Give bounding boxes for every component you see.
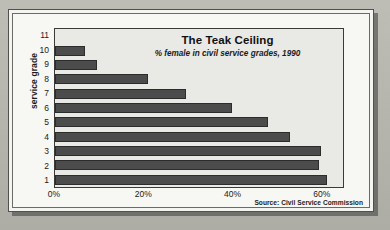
- figure-card: service grade 1110987654321 The Teak Cei…: [8, 9, 374, 212]
- bar-row: [55, 173, 343, 187]
- bar: [55, 146, 321, 156]
- bar: [55, 117, 268, 127]
- y-axis-tick-label: 5: [25, 115, 51, 130]
- bar-row: [55, 86, 343, 100]
- bar: [55, 160, 319, 170]
- chart-title: The Teak Ceiling: [120, 34, 335, 47]
- chart-subtitle: % female in civil service grades, 1990: [120, 49, 335, 58]
- bar-chart: service grade 1110987654321 The Teak Cei…: [13, 14, 369, 207]
- bar-row: [55, 58, 343, 72]
- y-axis-tick-label: 9: [25, 57, 51, 72]
- bar: [55, 175, 327, 185]
- bar: [55, 60, 97, 70]
- plot-area: The Teak Ceiling % female in civil servi…: [54, 28, 344, 188]
- bar-row: [55, 72, 343, 86]
- bar-row: [55, 130, 343, 144]
- y-axis-tick-label: 10: [25, 43, 51, 58]
- y-axis-tick-label: 1: [25, 173, 51, 188]
- y-axis-tick-labels: 1110987654321: [25, 28, 51, 188]
- bar-row: [55, 158, 343, 172]
- bar: [55, 46, 85, 56]
- bar: [55, 74, 148, 84]
- x-axis-tick-label: 40%: [224, 190, 241, 199]
- bar-row: [55, 144, 343, 158]
- y-axis-tick-label: 2: [25, 159, 51, 174]
- y-axis-tick-label: 7: [25, 86, 51, 101]
- x-axis-tick-label: 60%: [313, 190, 330, 199]
- bar: [55, 132, 290, 142]
- bar: [55, 103, 232, 113]
- plot-area-inner: The Teak Ceiling % female in civil servi…: [55, 29, 343, 187]
- y-axis-tick-label: 3: [25, 144, 51, 159]
- x-axis-tick-label: 20%: [135, 190, 152, 199]
- bar: [55, 89, 186, 99]
- source-note: Source: Civil Service Commission: [254, 199, 363, 206]
- x-axis-tick-label: 0%: [48, 190, 60, 199]
- y-axis-tick-label: 4: [25, 130, 51, 145]
- screenshot-page: service grade 1110987654321 The Teak Cei…: [0, 0, 390, 230]
- bar-row: [55, 115, 343, 129]
- figure-card-inner: service grade 1110987654321 The Teak Cei…: [12, 13, 370, 208]
- bar-row: [55, 101, 343, 115]
- y-axis-tick-label: 6: [25, 101, 51, 116]
- y-axis-tick-label: 8: [25, 72, 51, 87]
- y-axis-tick-label: 11: [25, 28, 51, 43]
- title-block: The Teak Ceiling % female in civil servi…: [120, 34, 335, 59]
